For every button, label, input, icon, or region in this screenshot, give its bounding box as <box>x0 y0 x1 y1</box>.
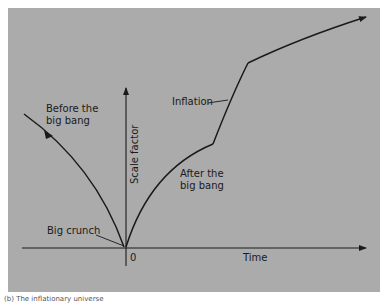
inflation-label: Inflation <box>172 96 213 108</box>
x-axis-label: Time <box>243 252 267 264</box>
origin-label: 0 <box>130 252 136 264</box>
before-big-bang-label: Before the big bang <box>46 103 98 127</box>
inflation-curve <box>213 63 248 144</box>
after-big-bang-label: After the big bang <box>180 168 224 192</box>
post-inflation-curve <box>248 17 366 63</box>
y-axis-label: Scale factor <box>129 125 141 184</box>
figure-caption: (b) The inflationary universe <box>4 295 104 303</box>
before-curve-arrow-icon <box>44 130 53 139</box>
big-crunch-label: Big crunch <box>47 225 100 237</box>
